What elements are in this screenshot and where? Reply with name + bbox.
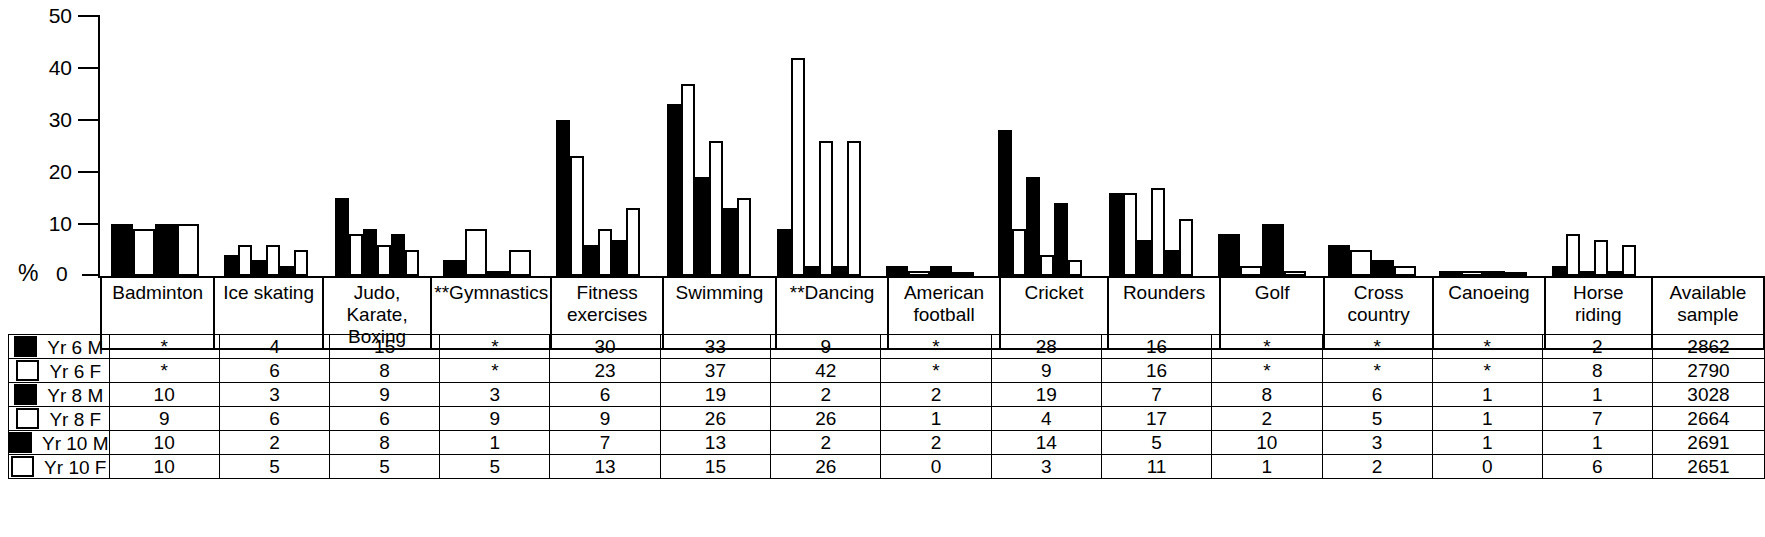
table-row: Yr 8 F966992626141725172664 [9, 407, 1765, 431]
y-tick-label-40: 40 [28, 57, 72, 78]
bar-group-badminton [100, 16, 211, 276]
cell-r5-c2: 5 [330, 455, 440, 479]
cell-r1-c1: 6 [219, 359, 329, 383]
cell-r5-c5: 15 [660, 455, 770, 479]
table-row: Yr 8 M103936192219786113028 [9, 383, 1765, 407]
cell-r4-c5: 13 [660, 431, 770, 455]
cell-r3-c10: 2 [1212, 407, 1322, 431]
bar-yr-8-m-0 [111, 224, 133, 276]
y-tick-10 [78, 223, 100, 225]
cell-r3-c6: 26 [771, 407, 881, 431]
cell-r1-c4: 23 [550, 359, 660, 383]
cell-r0-c3: * [440, 335, 550, 359]
bar-yr-8-m-5 [695, 177, 709, 276]
bar-yr-8-f-5 [709, 141, 723, 276]
bar-yr-6-m-9 [1109, 193, 1123, 276]
y-tick-40 [78, 67, 100, 69]
y-axis-zero-tick [82, 274, 100, 276]
y-tick-20 [78, 171, 100, 173]
bar-yr-10-f-9 [1179, 219, 1193, 276]
bar-yr-6-m-2 [335, 198, 349, 276]
bar-yr-6-m-8 [998, 130, 1012, 276]
bar-yr-6-m-1 [224, 255, 238, 276]
cell-r2-c8: 19 [991, 383, 1101, 407]
cell-r0-c2: 15 [330, 335, 440, 359]
cell-r1-c13: 8 [1542, 359, 1652, 383]
cell-r2-c5: 19 [660, 383, 770, 407]
cell-r3-c8: 4 [991, 407, 1101, 431]
bar-yr-6-f-9 [1123, 193, 1137, 276]
legend-row-yr-8-f: Yr 8 F [9, 407, 110, 431]
cell-r4-c3: 1 [440, 431, 550, 455]
cell-r5-c14: 2651 [1652, 455, 1764, 479]
bar-yr-10-m-7 [930, 266, 952, 276]
cell-r2-c4: 6 [550, 383, 660, 407]
cell-r2-c6: 2 [771, 383, 881, 407]
bar-yr-8-f-8 [1040, 255, 1054, 276]
cell-r0-c12: * [1432, 335, 1542, 359]
cell-r2-c2: 9 [330, 383, 440, 407]
legend-label: Yr 8 M [47, 386, 103, 406]
cell-r5-c1: 5 [219, 455, 329, 479]
cell-r0-c6: 9 [771, 335, 881, 359]
cell-r1-c12: * [1432, 359, 1542, 383]
cell-r2-c14: 3028 [1652, 383, 1764, 407]
cell-r1-c5: 37 [660, 359, 770, 383]
plot-area [100, 16, 1765, 276]
cell-r2-c7: 2 [881, 383, 991, 407]
bar-yr-8-m-8 [1026, 177, 1040, 276]
cell-r1-c7: * [881, 359, 991, 383]
bar-yr-8-f-11 [1350, 250, 1372, 276]
cell-r2-c10: 8 [1212, 383, 1322, 407]
cell-r4-c4: 7 [550, 431, 660, 455]
cell-r5-c6: 26 [771, 455, 881, 479]
cell-r5-c3: 5 [440, 455, 550, 479]
bar-yr-6-f-2 [349, 234, 363, 276]
cell-r3-c1: 6 [219, 407, 329, 431]
bar-yr-6-f-5 [681, 84, 695, 276]
bar-yr-10-m-9 [1165, 250, 1179, 276]
cell-r2-c3: 3 [440, 383, 550, 407]
cell-r1-c0: * [109, 359, 219, 383]
bar-group-canoeing [1428, 16, 1539, 276]
bar-yr-10-m-2 [391, 234, 405, 276]
bar-group-ice-skating [211, 16, 322, 276]
bar-yr-10-f-3 [509, 250, 531, 276]
bar-yr-10-f-2 [405, 250, 419, 276]
cell-r5-c8: 3 [991, 455, 1101, 479]
table-row: Yr 10 M1028171322145103112691 [9, 431, 1765, 455]
cell-r4-c10: 10 [1212, 431, 1322, 455]
cell-r1-c6: 42 [771, 359, 881, 383]
cell-r5-c13: 6 [1542, 455, 1652, 479]
bar-group-cricket [985, 16, 1096, 276]
bar-yr-10-m-8 [1054, 203, 1068, 276]
cell-r5-c4: 13 [550, 455, 660, 479]
bar-yr-8-f-3 [465, 229, 487, 276]
cell-r1-c9: 16 [1101, 359, 1211, 383]
bar-yr-8-m-2 [363, 229, 377, 276]
cell-r4-c0: 10 [109, 431, 219, 455]
cell-r3-c12: 1 [1432, 407, 1542, 431]
cell-r4-c13: 1 [1542, 431, 1652, 455]
data-table: Yr 6 M*415*30339*2816***22862Yr 6 F*68*2… [8, 334, 1765, 479]
bar-yr-10-m-4 [612, 240, 626, 276]
bar-group-cross-country [1317, 16, 1428, 276]
bar-yr-8-f-4 [598, 229, 612, 276]
cell-r0-c4: 30 [550, 335, 660, 359]
y-tick-30 [78, 119, 100, 121]
chart-root: 5040302010 0 % BadmintonIce skatingJudo,… [0, 0, 1765, 537]
bar-yr-10-m-0 [155, 224, 177, 276]
cell-r4-c7: 2 [881, 431, 991, 455]
cell-r3-c7: 1 [881, 407, 991, 431]
bar-group-fitness-exercises [543, 16, 654, 276]
bar-yr-8-f-0 [133, 229, 155, 276]
cell-r0-c1: 4 [219, 335, 329, 359]
bar-group-horse-riding [1538, 16, 1649, 276]
empty-square-icon [16, 360, 39, 381]
cell-r0-c5: 33 [660, 335, 770, 359]
cell-r1-c14: 2790 [1652, 359, 1764, 383]
bar-group-gymnastics [432, 16, 543, 276]
bar-yr-8-m-4 [584, 245, 598, 276]
cell-r0-c9: 16 [1101, 335, 1211, 359]
cell-r3-c3: 9 [440, 407, 550, 431]
